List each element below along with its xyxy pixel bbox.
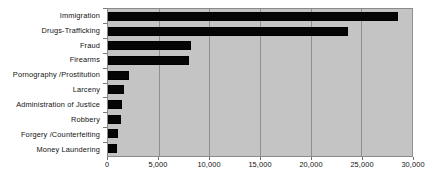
- bar: [108, 144, 117, 153]
- value-tick-label: 5,000: [149, 161, 168, 168]
- value-tick-label: 0: [105, 161, 109, 168]
- category-label: Fraud: [0, 38, 104, 53]
- bar-row: [108, 97, 412, 112]
- bar-row: [108, 53, 412, 68]
- bar-row: [108, 141, 412, 156]
- category-label: Money Laundering: [0, 142, 104, 157]
- bar: [108, 100, 122, 109]
- bar-row: [108, 83, 412, 98]
- bar: [108, 41, 191, 50]
- bar-row: [108, 68, 412, 83]
- category-label: Firearms: [0, 53, 104, 68]
- category-label: Administration of Justice: [0, 97, 104, 112]
- plot-area: [107, 8, 413, 157]
- bar-row: [108, 112, 412, 127]
- bars-layer: [108, 9, 412, 156]
- value-tick-label: 10,000: [197, 161, 220, 168]
- category-label: Forgery /Counterfeiting: [0, 127, 104, 142]
- value-tick-label: 20,000: [299, 161, 322, 168]
- bar: [108, 56, 189, 65]
- value-tick-label: 30,000: [401, 161, 424, 168]
- bar: [108, 115, 121, 124]
- bar-chart: ImmigrationDrugs-TraffickingFraudFirearm…: [0, 0, 435, 183]
- bar-row: [108, 24, 412, 39]
- value-tick-label: 25,000: [350, 161, 373, 168]
- bar: [108, 85, 124, 94]
- value-tick-label: 15,000: [248, 161, 271, 168]
- category-label: Larceny: [0, 83, 104, 98]
- bar-row: [108, 127, 412, 142]
- category-label: Drugs-Trafficking: [0, 23, 104, 38]
- category-label: Robbery: [0, 112, 104, 127]
- category-label: Pornography /Prostitution: [0, 68, 104, 83]
- value-axis-labels: 05,00010,00015,00020,00025,00030,000: [107, 161, 413, 175]
- bar-row: [108, 38, 412, 53]
- category-label: Immigration: [0, 8, 104, 23]
- bar: [108, 129, 118, 138]
- category-axis: ImmigrationDrugs-TraffickingFraudFirearm…: [0, 8, 104, 157]
- bar: [108, 12, 398, 21]
- gridline: [412, 9, 413, 156]
- bar: [108, 71, 129, 80]
- bar-row: [108, 9, 412, 24]
- bar: [108, 27, 348, 36]
